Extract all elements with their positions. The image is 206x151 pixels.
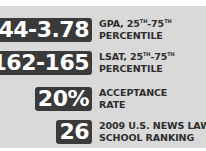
stat-acceptance: 20% ACCEPTANCE RATE bbox=[0, 87, 206, 117]
stat-gpa: 3.44-3.78 GPA, 25TH-75TH PERCENTILE bbox=[0, 18, 206, 48]
stat-lsat: 162-165 LSAT, 25TH-75TH PERCENTILE bbox=[0, 51, 206, 81]
stat-label: 2009 U.S. NEWS LAW SCHOOL RANKING bbox=[99, 120, 206, 144]
stat-value-badge: 20% bbox=[35, 87, 92, 111]
stat-value-badge: 162-165 bbox=[0, 51, 92, 75]
stat-value-badge: 26 bbox=[56, 120, 92, 144]
stat-label: GPA, 25TH-75TH PERCENTILE bbox=[99, 18, 172, 42]
stat-ranking: 26 2009 U.S. NEWS LAW SCHOOL RANKING bbox=[0, 120, 206, 150]
stat-label: LSAT, 25TH-75TH PERCENTILE bbox=[99, 51, 175, 75]
stat-value-badge: 3.44-3.78 bbox=[0, 18, 92, 42]
stats-panel: 3.44-3.78 GPA, 25TH-75TH PERCENTILE 162-… bbox=[0, 6, 206, 148]
stat-label: ACCEPTANCE RATE bbox=[99, 87, 167, 111]
